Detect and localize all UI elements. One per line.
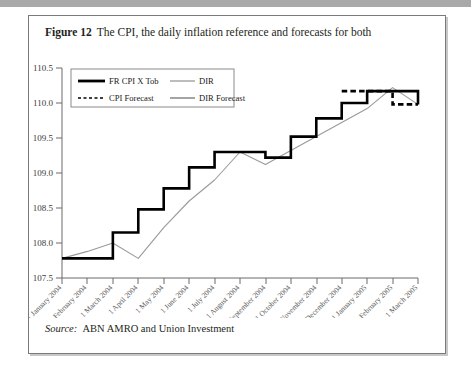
y-tick-label: 108.0 (33, 238, 54, 248)
legend-label-dir: DIR (199, 76, 214, 86)
y-tick-label: 107.5 (33, 273, 54, 283)
series-dir (62, 109, 367, 259)
legend-label-fr-cpi-x-tob: FR CPI X Tob (109, 76, 159, 86)
figure-source: Source: ABN AMRO and Union Investment (45, 323, 234, 334)
series-fr-cpi-x-tob (62, 91, 418, 258)
page-top-rule (0, 0, 471, 7)
y-axis-labels: 110.5 110.0 109.5 109.0 108.5 108.0 107.… (33, 63, 54, 283)
y-axis-ticks (56, 68, 62, 278)
legend-label-dir-forecast: DIR Forecast (199, 93, 246, 103)
figure-card: Figure 12The CPI, the daily inflation re… (28, 15, 446, 354)
figure-title: Figure 12The CPI, the daily inflation re… (45, 26, 371, 38)
source-label: Source: (45, 323, 77, 334)
figure-number: Figure 12 (45, 26, 92, 38)
chart-plot-area: 110.5 110.0 109.5 109.0 108.5 108.0 107.… (29, 38, 447, 318)
source-text: ABN AMRO and Union Investment (83, 323, 235, 334)
x-axis-labels: 1 January 2004 1 February 2004 1 March 2… (29, 283, 420, 318)
legend-label-cpi-forecast: CPI Forecast (109, 93, 154, 103)
y-tick-label: 109.5 (33, 133, 54, 143)
y-tick-label: 108.5 (33, 203, 54, 213)
y-tick-label: 110.5 (33, 63, 53, 73)
y-tick-label: 109.0 (33, 168, 54, 178)
chart-legend: FR CPI X Tob DIR CPI Forecast DIR Foreca… (71, 69, 246, 107)
chart-svg: 110.5 110.0 109.5 109.0 108.5 108.0 107.… (29, 38, 447, 318)
x-axis-ticks (62, 278, 418, 284)
figure-caption: The CPI, the daily inflation reference a… (97, 26, 372, 38)
y-tick-label: 110.0 (33, 98, 53, 108)
